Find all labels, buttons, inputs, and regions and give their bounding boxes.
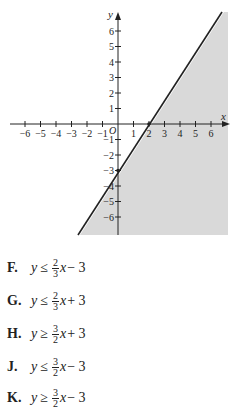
choice-letter: J. xyxy=(7,359,31,375)
y-tick-label: 4 xyxy=(109,57,114,68)
x-tick-label: 6 xyxy=(209,128,214,139)
fraction: 32 xyxy=(52,324,59,345)
y-tick-label: −2 xyxy=(103,150,114,161)
x-tick-label: 1 xyxy=(131,128,136,139)
fraction: 23 xyxy=(52,258,59,279)
coordinate-graph: −6−5−4−3−2−1123456 −6−5−4−3−2−1123456 x … xyxy=(0,0,238,240)
y-axis-arrow-icon xyxy=(115,12,121,20)
x-tick-label: −5 xyxy=(35,128,46,139)
x-tick-label: −3 xyxy=(66,128,77,139)
fraction: 32 xyxy=(52,357,59,378)
fraction: 32 xyxy=(52,388,59,409)
y-tick-label: −6 xyxy=(103,212,114,223)
origin-label: O xyxy=(109,125,116,136)
x-tick-label: −4 xyxy=(51,128,62,139)
y-tick-label: −5 xyxy=(103,196,114,207)
y-tick-label: 3 xyxy=(109,72,114,83)
choice-g[interactable]: G. y ≤ 23 x + 3 xyxy=(7,286,86,316)
x-tick-label: 4 xyxy=(178,128,183,139)
choice-letter: F. xyxy=(7,260,31,276)
choice-expression: y ≥ 32 x + 3 xyxy=(31,324,86,345)
choice-f[interactable]: F. y ≤ 23 x − 3 xyxy=(7,253,86,283)
choice-expression: y ≥ 32 x − 3 xyxy=(31,388,86,409)
point-y-intercept xyxy=(116,169,120,173)
y-tick-label: 1 xyxy=(109,103,114,114)
x-tick-label: 5 xyxy=(193,128,198,139)
y-axis-label: y xyxy=(107,8,113,20)
choice-h[interactable]: H. y ≥ 32 x + 3 xyxy=(7,319,86,349)
point-x-intercept xyxy=(147,122,151,126)
y-tick-label: −3 xyxy=(103,165,114,176)
choice-letter: H. xyxy=(7,326,31,342)
choice-expression: y ≤ 23 x + 3 xyxy=(31,291,86,312)
choice-letter: G. xyxy=(7,293,31,309)
choice-letter: K. xyxy=(7,390,31,406)
x-axis-label: x xyxy=(220,110,226,122)
choice-expression: y ≤ 32 x − 3 xyxy=(31,357,86,378)
choice-k[interactable]: K. y ≥ 32 x − 3 xyxy=(7,383,86,411)
x-tick-label: 3 xyxy=(162,128,167,139)
choice-j[interactable]: J. y ≤ 32 x − 3 xyxy=(7,352,86,382)
y-tick-label: 2 xyxy=(109,88,114,99)
y-tick-label: 5 xyxy=(109,41,114,52)
x-tick-label: −6 xyxy=(20,128,31,139)
x-tick-label: 2 xyxy=(147,128,152,139)
choice-expression: y ≤ 23 x − 3 xyxy=(31,258,86,279)
y-tick-label: 6 xyxy=(109,26,114,37)
fraction: 23 xyxy=(52,291,59,312)
x-tick-label: −2 xyxy=(82,128,93,139)
